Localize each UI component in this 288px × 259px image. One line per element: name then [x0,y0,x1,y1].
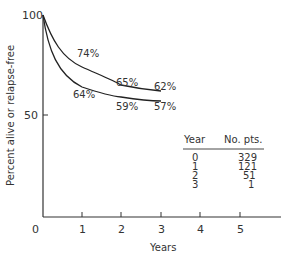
relapse-free-curve [43,15,161,101]
y-axis-title: Percent alive or relapse-free [5,45,16,186]
relapse-label-year3: 57% [154,101,176,112]
relapse-label-year1: 64% [73,89,95,100]
y-tick-label-100: 100 [22,9,43,22]
x-tick-label-5: 5 [237,223,244,236]
alive-label-year1: 74% [77,48,99,59]
y-tick-label-50: 50 [24,109,38,122]
x-tick-label-3: 3 [158,223,165,236]
table-header-pts: No. pts. [224,134,262,145]
table-year-3: 3 [192,179,198,190]
table-pts-3: 1 [248,179,254,190]
x-tick-label-0: 0 [32,223,39,236]
x-tick-label-4: 4 [197,223,204,236]
x-tick-label-1: 1 [79,223,86,236]
x-tick-label-2: 2 [118,223,125,236]
x-axis-title: Years [149,242,176,253]
alive-label-year2: 65% [116,77,138,88]
survival-chart: 50 100 0 1 2 3 4 5 Years Percent alive o… [0,0,288,259]
table-header-year: Year [183,134,206,145]
alive-curve [43,15,161,91]
relapse-label-year2: 59% [116,101,138,112]
alive-label-year3: 62% [154,81,176,92]
